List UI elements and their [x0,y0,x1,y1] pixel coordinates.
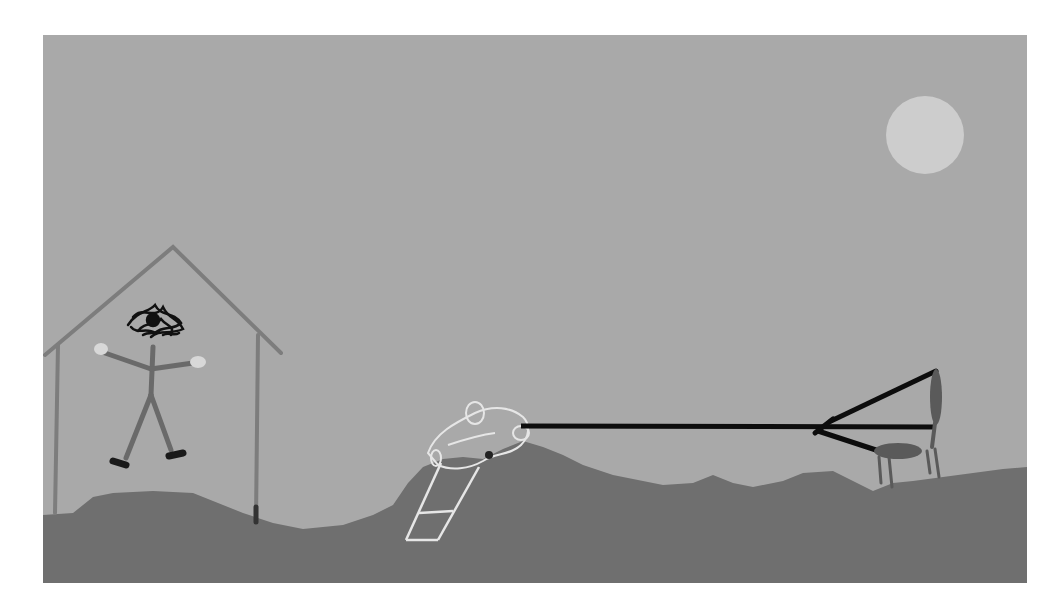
drawing-canvas: Drawing of a stick figure in a house, a … [43,35,1027,583]
sun-icon [886,96,964,174]
rope [521,426,936,427]
